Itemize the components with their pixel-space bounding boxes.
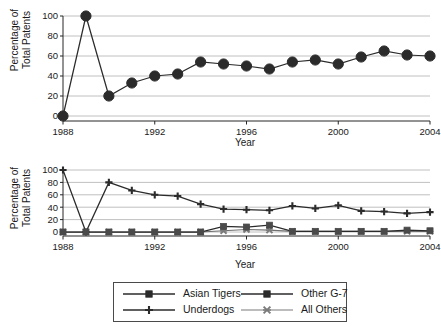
series-asian-tigers bbox=[60, 222, 433, 235]
data-point-marker bbox=[426, 209, 433, 216]
data-point-marker bbox=[83, 229, 89, 235]
data-point-marker bbox=[264, 64, 274, 74]
data-point-marker bbox=[105, 179, 112, 186]
data-point-marker bbox=[173, 69, 183, 79]
data-point-marker bbox=[425, 51, 435, 61]
legend-item-label: All Others bbox=[301, 303, 347, 315]
legend-svg: Asian TigersOther G-7UnderdogsAll Others bbox=[113, 282, 347, 322]
data-point-marker bbox=[129, 229, 135, 235]
y-tick-label: 60 bbox=[47, 50, 58, 61]
data-point-marker bbox=[146, 291, 152, 297]
data-point-marker bbox=[150, 71, 160, 81]
data-point-marker bbox=[404, 227, 410, 233]
data-point-marker bbox=[128, 187, 135, 194]
data-point-marker bbox=[175, 229, 181, 235]
y-tick-label: 0 bbox=[53, 110, 58, 121]
data-point-marker bbox=[104, 91, 114, 101]
y-tick-label: 40 bbox=[47, 70, 58, 81]
y-tick-label: 40 bbox=[47, 202, 58, 213]
data-point-marker bbox=[358, 207, 365, 214]
legend: Asian TigersOther G-7UnderdogsAll Others bbox=[113, 282, 347, 322]
data-point-marker bbox=[312, 228, 318, 234]
data-point-marker bbox=[356, 52, 366, 62]
data-point-marker bbox=[289, 202, 296, 209]
bottom-y-tick-labels: 020406080100 bbox=[42, 164, 58, 237]
data-point-marker bbox=[81, 11, 91, 21]
bottom-gridlines bbox=[63, 170, 430, 232]
data-point-marker bbox=[289, 228, 295, 234]
data-point-marker bbox=[221, 223, 227, 229]
data-point-marker bbox=[220, 205, 227, 212]
x-tick-label: 1988 bbox=[52, 241, 73, 252]
top-y-axis-title-line1: Percentage of bbox=[9, 9, 20, 71]
x-tick-label: 2000 bbox=[328, 126, 349, 137]
x-tick-label: 1992 bbox=[144, 126, 165, 137]
data-point-marker bbox=[106, 229, 112, 235]
bottom-x-axis-title: Year bbox=[235, 259, 256, 270]
data-point-marker bbox=[264, 291, 270, 297]
top-x-axis-title: Year bbox=[235, 137, 256, 148]
data-point-marker bbox=[127, 78, 137, 88]
data-point-marker bbox=[266, 222, 272, 228]
bottom-y-axis-title-line2: Total Patents bbox=[21, 169, 32, 227]
data-point-marker bbox=[241, 61, 251, 71]
data-point-marker bbox=[381, 228, 387, 234]
y-tick-label: 20 bbox=[47, 90, 58, 101]
legend-item-label: Asian Tigers bbox=[183, 287, 241, 299]
legend-item-label: Underdogs bbox=[183, 303, 234, 315]
data-point-marker bbox=[59, 166, 66, 173]
data-point-marker bbox=[310, 55, 320, 65]
data-point-marker bbox=[379, 46, 389, 56]
x-tick-label: 2004 bbox=[419, 126, 440, 137]
data-point-marker bbox=[333, 59, 343, 69]
data-point-marker bbox=[196, 57, 206, 67]
data-point-marker bbox=[381, 208, 388, 215]
x-tick-label: 1996 bbox=[236, 241, 257, 252]
data-point-marker bbox=[152, 229, 158, 235]
bottom-chart-panel: 020406080100 19881992199620002004 Year P… bbox=[0, 160, 441, 278]
y-tick-label: 20 bbox=[47, 214, 58, 225]
series-other-g-7 bbox=[58, 11, 435, 121]
x-tick-label: 1988 bbox=[52, 126, 73, 137]
data-point-marker bbox=[198, 229, 204, 235]
bottom-series-group bbox=[59, 166, 433, 235]
top-x-tick-labels: 19881992199620002004 bbox=[52, 126, 440, 137]
data-point-marker bbox=[197, 201, 204, 208]
y-tick-label: 0 bbox=[53, 226, 58, 237]
top-series-group bbox=[58, 11, 435, 121]
series-polyline bbox=[63, 170, 430, 232]
y-tick-label: 100 bbox=[42, 10, 58, 21]
top-chart-svg: 020406080100 19881992199620002004 Year P… bbox=[0, 0, 441, 150]
legend-item-label: Other G-7 bbox=[301, 287, 348, 299]
x-tick-label: 1996 bbox=[236, 126, 257, 137]
data-point-marker bbox=[403, 210, 410, 217]
data-point-marker bbox=[244, 224, 250, 230]
y-tick-label: 80 bbox=[47, 177, 58, 188]
data-point-marker bbox=[218, 59, 228, 69]
data-point-marker bbox=[287, 57, 297, 67]
y-tick-label: 100 bbox=[42, 164, 58, 175]
data-point-marker bbox=[335, 202, 342, 209]
data-point-marker bbox=[402, 50, 412, 60]
figure-root: 020406080100 19881992199620002004 Year P… bbox=[0, 0, 441, 327]
data-point-marker bbox=[151, 191, 158, 198]
bottom-y-axis-title-line1: Percentage of bbox=[9, 167, 20, 229]
data-point-marker bbox=[335, 228, 341, 234]
top-y-tick-labels: 020406080100 bbox=[42, 10, 58, 121]
y-tick-label: 80 bbox=[47, 30, 58, 41]
x-tick-label: 2000 bbox=[328, 241, 349, 252]
data-point-marker bbox=[174, 192, 181, 199]
top-y-axis-title-line2: Total Patents bbox=[21, 11, 32, 69]
x-tick-label: 1992 bbox=[144, 241, 165, 252]
bottom-chart-svg: 020406080100 19881992199620002004 Year P… bbox=[0, 160, 441, 278]
y-tick-label: 60 bbox=[47, 189, 58, 200]
data-point-marker bbox=[58, 111, 68, 121]
data-point-marker bbox=[312, 205, 319, 212]
bottom-x-tick-labels: 19881992199620002004 bbox=[52, 241, 440, 252]
data-point-marker bbox=[427, 228, 433, 234]
data-point-marker bbox=[60, 229, 66, 235]
top-chart-panel: 020406080100 19881992199620002004 Year P… bbox=[0, 0, 441, 150]
data-point-marker bbox=[266, 207, 273, 214]
data-point-marker bbox=[358, 228, 364, 234]
x-tick-label: 2004 bbox=[419, 241, 440, 252]
